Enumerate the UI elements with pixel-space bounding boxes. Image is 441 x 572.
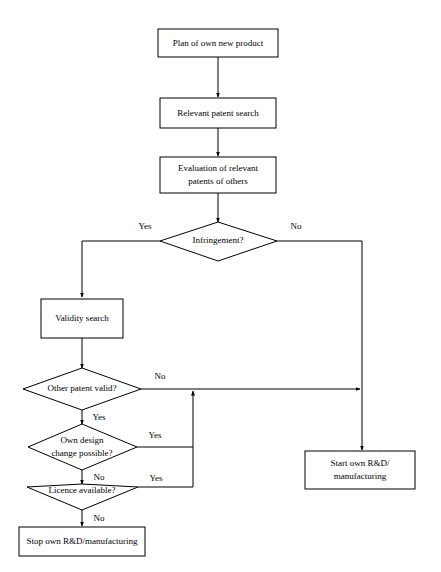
- node-designchange-label-line1: Own design: [60, 435, 104, 445]
- edge-infringement-yes-to-validity: [82, 241, 160, 297]
- edge-label-licence-no: No: [94, 513, 105, 523]
- node-licence-available-decision[interactable]: Licence available?: [27, 484, 138, 510]
- edge-label-infringement-yes: Yes: [138, 221, 152, 231]
- node-evaluation-label-line2: patents of others: [188, 176, 248, 186]
- node-validity-search[interactable]: Validity search: [41, 299, 123, 338]
- flowchart-svg: Plan of own new product Relevant patent …: [0, 0, 441, 572]
- edge-label-layer: Yes No No Yes Yes No Yes No: [92, 221, 302, 523]
- node-infringement-decision[interactable]: Infringement?: [160, 222, 277, 261]
- node-search-label: Relevant patent search: [177, 108, 259, 118]
- edge-infringement-no-rail: [277, 241, 362, 389]
- node-designchange-label-line2: change possible?: [51, 448, 112, 458]
- node-stop-label: Stop own R&D/manufacturing: [27, 536, 138, 546]
- node-start-shape: [305, 451, 415, 489]
- edge-label-othervalid-yes: Yes: [92, 412, 106, 422]
- node-evaluation-label-line1: Evaluation of relevant: [178, 163, 258, 173]
- node-start-own-rd-manufacturing[interactable]: Start own R&D/ manufacturing: [305, 451, 415, 489]
- edge-label-designchange-yes: Yes: [148, 430, 162, 440]
- node-evaluation-of-relevant-patents[interactable]: Evaluation of relevant patents of others: [160, 157, 276, 193]
- node-infringement-label: Infringement?: [193, 235, 244, 245]
- edge-label-othervalid-no: No: [155, 371, 166, 381]
- node-validity-label: Validity search: [55, 313, 109, 323]
- node-relevant-patent-search[interactable]: Relevant patent search: [160, 98, 276, 128]
- node-plan-of-own-new-product[interactable]: Plan of own new product: [158, 29, 278, 57]
- edge-label-designchange-no: No: [94, 472, 105, 482]
- node-own-design-change-decision[interactable]: Own design change possible?: [28, 424, 137, 470]
- node-stop-own-rd-manufacturing[interactable]: Stop own R&D/manufacturing: [19, 527, 145, 556]
- node-designchange-shape: [28, 424, 137, 470]
- edge-label-infringement-no: No: [291, 221, 302, 231]
- node-start-label-line2: manufacturing: [334, 471, 387, 481]
- node-licence-label: Licence available?: [48, 485, 115, 495]
- edge-label-licence-yes: Yes: [149, 473, 163, 483]
- node-other-patent-valid-decision[interactable]: Other patent valid?: [23, 368, 141, 410]
- flowchart-canvas: Plan of own new product Relevant patent …: [0, 0, 441, 572]
- node-othervalid-label: Other patent valid?: [48, 383, 117, 393]
- node-start-label-line1: Start own R&D/: [330, 458, 390, 468]
- node-plan-label: Plan of own new product: [173, 38, 264, 48]
